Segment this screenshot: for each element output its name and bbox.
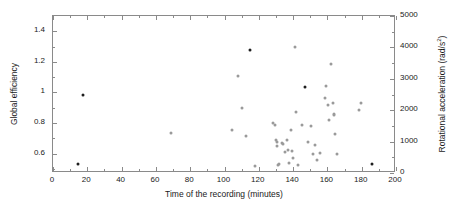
scatter-point bbox=[323, 97, 326, 100]
scatter-point bbox=[277, 162, 280, 165]
axis-tick-major bbox=[259, 16, 260, 20]
axis-tick-major bbox=[259, 167, 260, 171]
axis-tick-minor bbox=[173, 169, 174, 171]
axis-tick-label: 120 bbox=[251, 176, 264, 184]
axis-tick-major bbox=[327, 16, 328, 20]
scatter-point bbox=[310, 125, 313, 128]
axis-tick-major bbox=[122, 16, 123, 20]
axis-tick-label: 1 bbox=[41, 87, 45, 95]
axis-tick-minor bbox=[392, 95, 394, 96]
axis-tick-minor bbox=[345, 16, 346, 18]
axis-tick-label: 2000 bbox=[400, 105, 418, 113]
axis-tick-minor bbox=[207, 16, 208, 18]
axis-tick-major bbox=[293, 16, 294, 20]
axis-tick-minor bbox=[53, 47, 55, 48]
axis-tick-minor bbox=[104, 16, 105, 18]
scatter-point bbox=[331, 102, 334, 105]
axis-tick-minor bbox=[276, 169, 277, 171]
axis-tick-major bbox=[362, 167, 363, 171]
scatter-point bbox=[240, 106, 243, 109]
scatter-point bbox=[275, 141, 278, 144]
axis-tick-major bbox=[225, 167, 226, 171]
scatter-point bbox=[311, 153, 314, 156]
scatter-point bbox=[334, 133, 337, 136]
axis-tick-major bbox=[53, 154, 57, 155]
axis-tick-label: 20 bbox=[82, 176, 91, 184]
scatter-point bbox=[287, 149, 290, 152]
axis-tick-major bbox=[390, 173, 394, 174]
scatter-point bbox=[300, 124, 303, 127]
axis-tick-major bbox=[327, 167, 328, 171]
scatter-point bbox=[81, 94, 84, 97]
axis-tick-minor bbox=[392, 157, 394, 158]
axis-tick-minor bbox=[392, 126, 394, 127]
axis-tick-minor bbox=[242, 169, 243, 171]
axis-tick-minor bbox=[53, 77, 55, 78]
scatter-point bbox=[276, 144, 279, 147]
scatter-point bbox=[315, 158, 318, 161]
axis-tick-label: 100 bbox=[217, 176, 230, 184]
axis-tick-minor bbox=[379, 169, 380, 171]
axis-tick-major bbox=[390, 79, 394, 80]
scatter-point bbox=[291, 150, 294, 153]
axis-tick-major bbox=[53, 16, 54, 20]
axis-tick-major bbox=[156, 16, 157, 20]
axis-tick-major bbox=[53, 123, 57, 124]
axis-tick-label: 60 bbox=[150, 176, 159, 184]
axis-tick-major bbox=[390, 110, 394, 111]
axis-tick-major bbox=[396, 167, 397, 171]
axis-tick-major bbox=[190, 167, 191, 171]
scatter-point bbox=[325, 85, 328, 88]
scatter-point bbox=[76, 162, 79, 165]
axis-tick-label: 1.4 bbox=[34, 26, 45, 34]
axis-tick-minor bbox=[379, 16, 380, 18]
axis-tick-minor bbox=[53, 169, 55, 170]
scatter-point bbox=[253, 164, 256, 167]
axis-tick-label: 80 bbox=[185, 176, 194, 184]
axis-tick-major bbox=[396, 16, 397, 20]
axis-tick-label: 5000 bbox=[400, 11, 418, 19]
axis-tick-minor bbox=[310, 16, 311, 18]
axis-tick-major bbox=[390, 16, 394, 17]
axis-tick-major bbox=[156, 167, 157, 171]
scatter-point bbox=[293, 45, 296, 48]
axis-tick-major bbox=[53, 31, 57, 32]
scatter-point bbox=[303, 86, 306, 89]
scatter-point bbox=[290, 128, 293, 131]
scatter-point bbox=[330, 62, 333, 65]
scatter-point bbox=[335, 152, 338, 155]
scatter-point bbox=[284, 151, 287, 154]
y-axis-title-right-text: Rotational acceleration (rad/s bbox=[437, 42, 447, 153]
scatter-point bbox=[314, 144, 317, 147]
axis-tick-label: 0 bbox=[50, 176, 54, 184]
axis-tick-minor bbox=[53, 108, 55, 109]
scatter-point bbox=[273, 123, 276, 126]
axis-tick-minor bbox=[104, 169, 105, 171]
axis-tick-major bbox=[87, 16, 88, 20]
plot-area bbox=[52, 15, 395, 172]
axis-tick-minor bbox=[242, 16, 243, 18]
axis-tick-minor bbox=[70, 16, 71, 18]
scatter-chart-figure: Time of the recording (minutes) Global e… bbox=[0, 0, 459, 207]
axis-tick-major bbox=[390, 47, 394, 48]
axis-tick-major bbox=[225, 16, 226, 20]
axis-tick-major bbox=[362, 16, 363, 20]
axis-tick-minor bbox=[207, 169, 208, 171]
scatter-point bbox=[296, 163, 299, 166]
axis-tick-minor bbox=[392, 32, 394, 33]
y-axis-title-right: Rotational acceleration (rad/s2) bbox=[436, 36, 446, 153]
axis-tick-label: 4000 bbox=[400, 42, 418, 50]
y-axis-title-right-exponent: 2 bbox=[436, 38, 442, 41]
scatter-point bbox=[169, 132, 172, 135]
axis-tick-label: 200 bbox=[388, 176, 401, 184]
scatter-point bbox=[370, 162, 373, 165]
axis-tick-major bbox=[87, 167, 88, 171]
axis-tick-minor bbox=[139, 169, 140, 171]
scatter-point bbox=[248, 48, 251, 51]
scatter-point bbox=[288, 162, 291, 165]
scatter-point bbox=[358, 108, 361, 111]
axis-tick-minor bbox=[173, 16, 174, 18]
axis-tick-minor bbox=[139, 16, 140, 18]
axis-tick-major bbox=[293, 167, 294, 171]
scatter-point bbox=[231, 128, 234, 131]
